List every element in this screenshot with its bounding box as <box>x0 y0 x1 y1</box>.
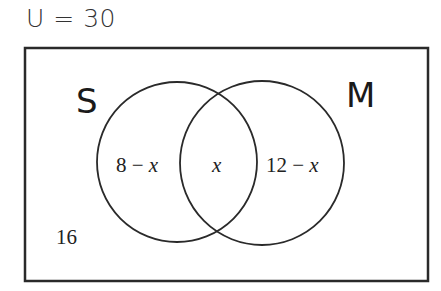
region-outside: 16 <box>56 225 77 249</box>
region-m-only: 12 − x <box>266 153 319 177</box>
venn-diagram: S M 8 − x x 12 − x 16 <box>0 0 441 291</box>
set-m-circle <box>180 81 344 245</box>
set-s-label: S <box>76 81 98 121</box>
set-m-label: M <box>346 75 375 115</box>
region-intersection: x <box>211 153 222 177</box>
region-s-only: 8 − x <box>116 153 159 177</box>
